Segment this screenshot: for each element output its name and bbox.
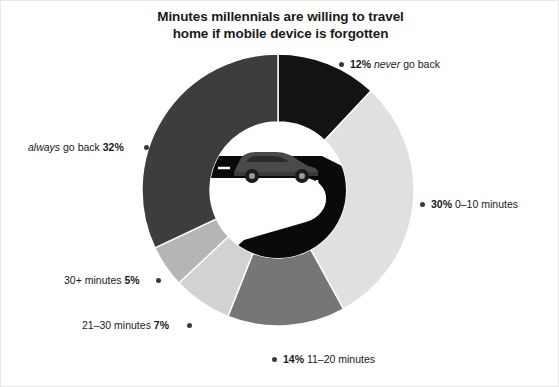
slice-value-11-20: 14% [283,353,304,365]
slice-text-always: go back [63,141,100,153]
slice-emphasis-never: never [374,58,400,70]
road-scene-svg [210,122,346,258]
slice-value-0-10: 30% [431,198,452,210]
infographic-container: Minutes millennials are willing to trave… [0,0,559,387]
slice-emphasis-always: always [28,141,60,153]
slice-value-21-30: 7% [154,319,169,331]
title-line-2: home if mobile device is forgotten [1,25,559,42]
slice-label-30-plus: 30+ minutes 5% [64,274,140,287]
leader-dot-always [144,145,149,150]
slice-value-never: 12% [350,58,371,70]
slice-text-11-20: 11–20 minutes [307,353,375,365]
slice-text-0-10: 0–10 minutes [455,198,518,210]
slice-text-30-plus: 30+ minutes [64,274,122,286]
leader-dot-11-20 [272,357,277,362]
slice-value-30-plus: 5% [124,274,139,286]
slice-text-21-30: 21–30 minutes [82,319,151,331]
donut-chart [142,54,414,358]
car-on-winding-road-illustration [210,122,346,258]
slice-label-11-20: 14% 11–20 minutes [283,353,375,366]
leader-dot-never [339,62,344,67]
slice-text-never: go back [403,58,440,70]
leader-dot-0-10 [420,202,425,207]
slice-value-always: 32% [103,141,124,153]
page-title: Minutes millennials are willing to trave… [1,8,559,42]
title-line-1: Minutes millennials are willing to trave… [1,8,559,25]
slice-label-never: 12% never go back [350,58,440,71]
slice-label-always: always go back 32% [28,141,124,154]
slice-label-0-10: 30% 0–10 minutes [431,198,518,211]
leader-dot-30-plus [156,278,161,283]
leader-dot-21-30 [187,323,192,328]
slice-label-21-30: 21–30 minutes 7% [82,319,169,332]
